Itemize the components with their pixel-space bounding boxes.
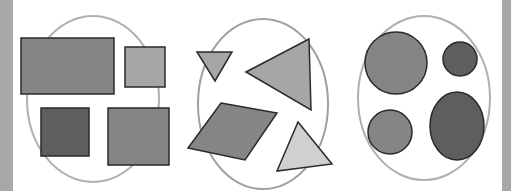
dark-square bbox=[41, 108, 89, 156]
set-rectangles bbox=[21, 16, 169, 182]
large-circle bbox=[365, 32, 427, 94]
small-square bbox=[125, 47, 165, 87]
set-circles bbox=[358, 16, 490, 180]
diagram-canvas bbox=[0, 0, 511, 191]
medium-circle bbox=[368, 110, 412, 154]
large-rectangle bbox=[21, 38, 114, 94]
parallelogram bbox=[188, 103, 277, 160]
light-triangle bbox=[277, 122, 332, 171]
small-dark-circle bbox=[443, 42, 477, 76]
dark-oval bbox=[430, 92, 484, 160]
shape-sets-diagram bbox=[0, 0, 511, 191]
large-triangle bbox=[246, 39, 311, 110]
medium-square bbox=[108, 108, 169, 165]
set-triangles bbox=[188, 19, 332, 189]
